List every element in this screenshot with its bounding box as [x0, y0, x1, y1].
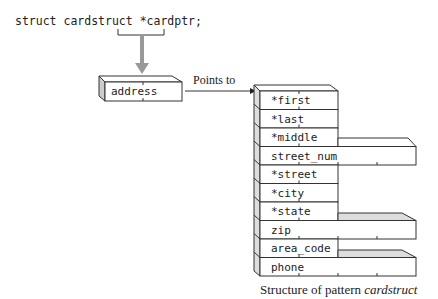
field-street-num: street_num: [271, 150, 337, 163]
caption-emphasis: cardstruct: [364, 282, 417, 297]
field-city: *city: [271, 187, 304, 200]
field-state: *state: [271, 205, 311, 218]
pointer-bracket: [118, 29, 164, 35]
figure-caption: Structure of pattern cardstruct: [260, 282, 417, 298]
field-street: *street: [271, 168, 317, 181]
points-to-arrow: [185, 88, 256, 94]
down-arrow-icon: [135, 35, 149, 74]
field-area-code: area_code: [271, 242, 331, 255]
caption-prefix: Structure of pattern: [260, 282, 364, 297]
field-zip: zip: [271, 224, 291, 237]
field-middle: *middle: [271, 131, 317, 144]
address-label: address: [111, 85, 157, 98]
field-phone: phone: [271, 261, 304, 274]
field-last: *last: [271, 113, 304, 126]
field-first: *first: [271, 94, 311, 107]
points-to-label: Points to: [193, 73, 235, 88]
diagram-graphics: [0, 0, 438, 299]
